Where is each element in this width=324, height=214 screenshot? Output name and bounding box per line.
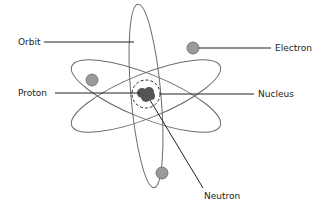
neutron-label: Neutron bbox=[204, 191, 240, 201]
atom-drawing bbox=[0, 0, 324, 214]
electron-label: Electron bbox=[275, 43, 312, 53]
electron-icon bbox=[187, 42, 199, 54]
electron-icon bbox=[86, 74, 98, 86]
atom-diagram: Orbit Electron Proton Nucleus Neutron bbox=[0, 0, 324, 214]
electron-icon bbox=[156, 167, 168, 179]
nucleus-label: Nucleus bbox=[258, 89, 294, 99]
orbit-label: Orbit bbox=[18, 37, 41, 47]
proton-label: Proton bbox=[18, 88, 47, 98]
electrons bbox=[86, 42, 199, 179]
